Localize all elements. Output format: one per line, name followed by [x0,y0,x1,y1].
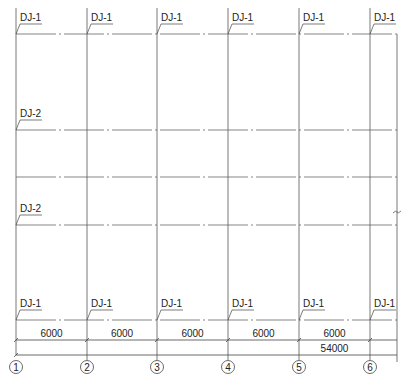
axis-bubbles: 123456 [10,361,377,374]
axis-number: 1 [13,362,19,373]
axis-number: 4 [225,362,231,373]
foundation-plan: DJ-1DJ-1DJ-1DJ-1DJ-1DJ-1DJ-1DJ-1DJ-1DJ-1… [0,0,409,383]
beam-label-top: DJ-1 [232,12,254,23]
beam-label-top: DJ-1 [374,12,396,23]
label-leader [87,310,113,320]
beam-label-top: DJ-1 [20,12,42,23]
dimension-lines: 6000600060006000600054000 [14,328,397,357]
beam-label-bottom: DJ-1 [303,298,325,309]
label-leader [16,215,42,225]
label-leader [370,24,396,34]
label-leader [16,24,42,34]
label-leader [157,310,183,320]
dimension-text: 6000 [111,328,134,339]
label-leader [87,24,113,34]
label-leader [157,24,183,34]
beam-label-bottom: DJ-1 [232,298,254,309]
beam-label-top: DJ-1 [161,12,183,23]
dimension-text: 6000 [252,328,275,339]
beam-label-bottom: DJ-1 [20,298,42,309]
dimension-text: 6000 [323,328,346,339]
axis-number: 5 [296,362,302,373]
label-leader [228,310,254,320]
beam-label-bottom: DJ-1 [374,298,396,309]
label-leader [16,120,42,130]
beam-label-top: DJ-1 [91,12,113,23]
dimension-text: 6000 [181,328,204,339]
label-leader [228,24,254,34]
axis-number: 6 [367,362,373,373]
dimension-text-total: 54000 [321,343,349,354]
beam-label-bottom: DJ-1 [161,298,183,309]
beam-labels: DJ-1DJ-1DJ-1DJ-1DJ-1DJ-1DJ-1DJ-1DJ-1DJ-1… [16,12,396,320]
label-leader [370,310,396,320]
beam-label-top: DJ-1 [303,12,325,23]
beam-label-left: DJ-2 [20,203,42,214]
label-leader [16,310,42,320]
beam-label-left: DJ-2 [20,108,42,119]
label-leader [299,24,325,34]
label-leader [299,310,325,320]
axis-number: 3 [154,362,160,373]
beam-label-bottom: DJ-1 [91,298,113,309]
dimension-text: 6000 [40,328,63,339]
grid-lines [16,8,401,362]
axis-number: 2 [84,362,90,373]
